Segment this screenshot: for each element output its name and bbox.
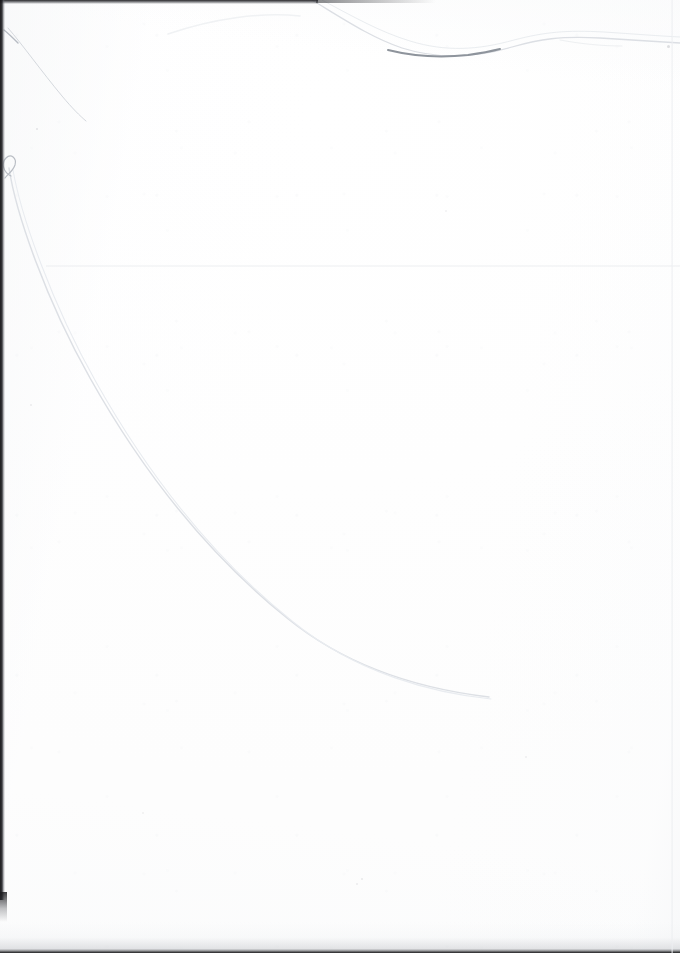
top-scan-edge-taper bbox=[316, 0, 436, 3]
speck-right-mid bbox=[525, 756, 527, 758]
speck-mid-left bbox=[30, 404, 32, 406]
speck-lower-left bbox=[142, 812, 144, 814]
speck-lower-center bbox=[356, 883, 358, 885]
top-scan-edge bbox=[0, 0, 318, 4]
bottom-scan-shade bbox=[0, 922, 680, 950]
speck-upper-left bbox=[36, 128, 38, 130]
bottom-scan-edge bbox=[0, 949, 680, 953]
scanned-page bbox=[0, 0, 680, 953]
paper-grain-texture bbox=[0, 0, 680, 953]
speck-center bbox=[361, 878, 363, 880]
left-scan-edge bbox=[0, 0, 5, 900]
right-scan-seam bbox=[671, 0, 673, 953]
speck-upper-right bbox=[445, 210, 447, 212]
left-scan-edge-fade bbox=[0, 892, 7, 922]
horizontal-fold-crease bbox=[46, 265, 680, 267]
speck-top-right bbox=[667, 45, 670, 48]
